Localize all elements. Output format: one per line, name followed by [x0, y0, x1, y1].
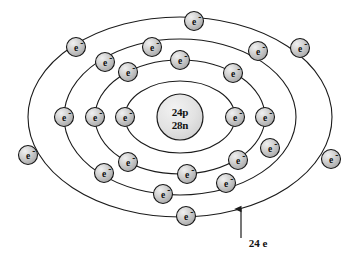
electron: e-: [19, 146, 38, 165]
electron-label: e: [161, 190, 165, 200]
electron-label: e: [74, 43, 78, 53]
electron-label: e: [263, 113, 267, 123]
total-electrons-label: 24 e: [249, 237, 268, 249]
electron-label: e: [231, 69, 235, 79]
electron: e-: [171, 51, 190, 70]
nucleus-proton-label: 24p: [172, 106, 189, 118]
electron-label: e: [192, 17, 196, 27]
electron-label: e: [123, 113, 127, 123]
electron-label: e: [329, 155, 333, 165]
electron-charge-sign: -: [80, 38, 83, 48]
electron-label: e: [102, 169, 106, 179]
electron-charge-sign: -: [99, 108, 102, 118]
electron: e-: [217, 174, 236, 193]
electron-charge-sign: -: [190, 207, 193, 217]
electron: e-: [95, 164, 114, 183]
electron: e-: [116, 108, 135, 127]
bohr-model-diagram: 24p28n e-e-e-e-e-e-e-e-e-e-e-e-e-e-e-e-e…: [0, 0, 354, 257]
electron: e-: [229, 151, 248, 170]
electron-label: e: [233, 113, 237, 123]
electron: e-: [224, 64, 243, 83]
electron-charge-sign: -: [108, 164, 111, 174]
electron-charge-sign: -: [335, 150, 338, 160]
electron-label: e: [150, 43, 154, 53]
electron-label: e: [185, 170, 189, 180]
electron-label: e: [184, 212, 188, 222]
electron: e-: [291, 39, 310, 58]
electron-label: e: [298, 44, 302, 54]
electron-label: e: [62, 113, 66, 123]
electron-label: e: [268, 144, 272, 154]
electron-label: e: [26, 151, 30, 161]
electron: e-: [67, 38, 86, 57]
electron: e-: [226, 108, 245, 127]
electron-label: e: [126, 68, 130, 78]
electron-charge-sign: -: [198, 12, 201, 22]
electron: e-: [177, 207, 196, 226]
electron: e-: [55, 108, 74, 127]
electron-charge-sign: -: [304, 39, 307, 49]
electron-charge-sign: -: [274, 139, 277, 149]
nucleus-layer: 24p28n: [157, 94, 203, 140]
electron: e-: [119, 153, 138, 172]
electron-charge-sign: -: [132, 63, 135, 73]
electron-label: e: [103, 58, 107, 68]
electron-charge-sign: -: [109, 53, 112, 63]
electron-label: e: [236, 156, 240, 166]
electron: e-: [119, 63, 138, 82]
electron-charge-sign: -: [129, 108, 132, 118]
electron: e-: [249, 42, 268, 61]
electron-charge-sign: -: [230, 174, 233, 184]
electron-label: e: [256, 47, 260, 57]
electron: e-: [322, 150, 341, 169]
electron: e-: [143, 38, 162, 57]
electron-charge-sign: -: [68, 108, 71, 118]
electron: e-: [86, 108, 105, 127]
electron-charge-sign: -: [156, 38, 159, 48]
electron-charge-sign: -: [167, 185, 170, 195]
atomic-structure-figure: 24p28n e-e-e-e-e-e-e-e-e-e-e-e-e-e-e-e-e…: [0, 0, 354, 257]
electron-charge-sign: -: [239, 108, 242, 118]
electron-label: e: [178, 56, 182, 66]
electron: e-: [256, 108, 275, 127]
electron-charge-sign: -: [184, 51, 187, 61]
electron-charge-sign: -: [237, 64, 240, 74]
electron: e-: [261, 139, 280, 158]
electron: e-: [185, 12, 204, 31]
electron-label: e: [224, 179, 228, 189]
electron-charge-sign: -: [242, 151, 245, 161]
electron-charge-sign: -: [262, 42, 265, 52]
nucleus-neutron-label: 28n: [172, 119, 189, 131]
electron-charge-sign: -: [32, 146, 35, 156]
electron-label: e: [126, 158, 130, 168]
annotation-layer: 24 e: [241, 209, 267, 249]
electron: e-: [154, 185, 173, 204]
electron-charge-sign: -: [269, 108, 272, 118]
electron: e-: [96, 53, 115, 72]
electron-charge-sign: -: [191, 165, 194, 175]
electron-charge-sign: -: [132, 153, 135, 163]
electron: e-: [178, 165, 197, 184]
electron-label: e: [93, 113, 97, 123]
